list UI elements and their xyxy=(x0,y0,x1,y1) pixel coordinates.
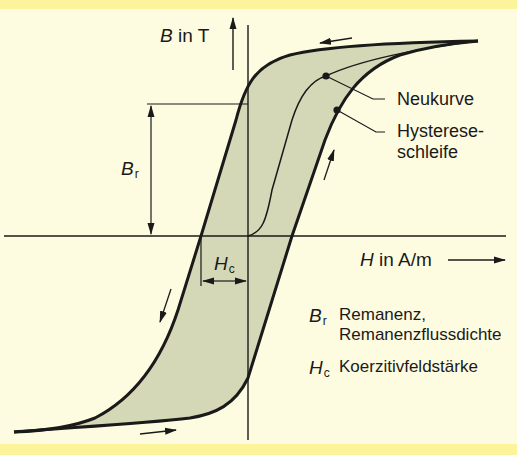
direction-arrow-right-icon xyxy=(324,150,334,180)
loop-callout: Hysterese- schleife xyxy=(397,121,484,162)
x-axis-symbol: H xyxy=(360,249,374,270)
direction-arrow-top-icon xyxy=(320,38,352,43)
legend-item-remanence: Br Remanenz, Remanenzflussdichte xyxy=(309,305,517,349)
x-axis-label: H in A/m xyxy=(360,249,432,271)
direction-arrow-bottom-icon xyxy=(140,430,176,434)
remanence-label: Br xyxy=(121,158,139,180)
y-axis-unit: in T xyxy=(178,25,209,46)
hysteresis-diagram: B in T H in A/m Br Hc Neukurve Hysterese… xyxy=(0,0,517,455)
new-curve-callout: Neukurve xyxy=(397,89,474,110)
coercivity-label: Hc xyxy=(214,253,235,275)
y-axis-symbol: B xyxy=(160,25,173,46)
y-axis-label: B in T xyxy=(160,25,209,47)
x-axis-unit: in A/m xyxy=(379,249,432,270)
loop-callout-line2: schleife xyxy=(397,142,484,163)
direction-arrow-left-icon xyxy=(160,289,171,322)
hysteresis-plot xyxy=(0,0,517,455)
loop-callout-line1: Hysterese- xyxy=(397,121,484,142)
loop-leader xyxy=(337,110,385,132)
legend-item-coercivity: Hc Koerzitivfeldstärke xyxy=(309,357,517,381)
